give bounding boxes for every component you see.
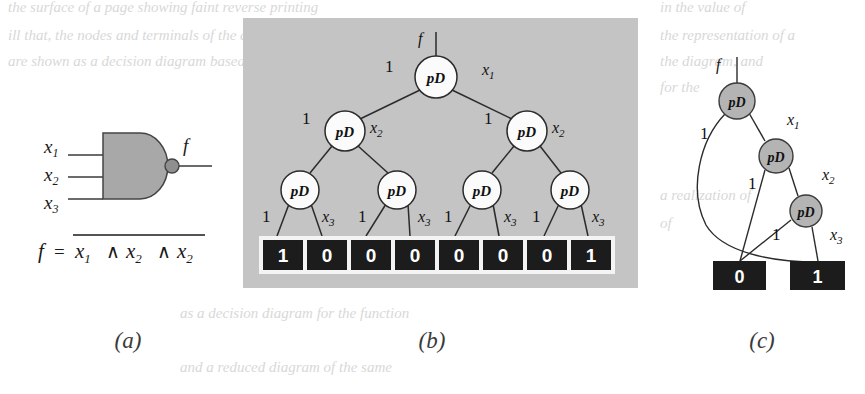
edge-m1-m2 bbox=[789, 168, 798, 196]
input-label-x1: x1 bbox=[43, 136, 58, 160]
bleed-text: are shown as a decision diagram based on bbox=[8, 53, 264, 69]
figure-captions: (a)(b)(c) bbox=[115, 328, 775, 353]
panel-c-edge-labels: 1x11x21x3 bbox=[700, 111, 843, 246]
decision-node: pD bbox=[507, 111, 547, 151]
edge-label-variable: x1 bbox=[786, 111, 800, 131]
edge-m2-x3-to-terminal-1 bbox=[812, 227, 818, 261]
node-label-pd: pD bbox=[471, 183, 492, 199]
panel-a-nand-gate: x1 x2 x3 f f = x1 ∧ x2 ∧ x2 bbox=[38, 133, 212, 266]
figure-caption-b: (b) bbox=[419, 328, 446, 353]
terminal-value: 1 bbox=[812, 267, 822, 287]
formula-operator-2: ∧ bbox=[157, 241, 171, 262]
node-label-pd: pD bbox=[796, 205, 814, 220]
edge-label-constant: 1 bbox=[262, 207, 271, 226]
edge-label-constant: 1 bbox=[444, 207, 453, 226]
edge-label-constant: 1 bbox=[302, 109, 311, 128]
edge-label-constant: 1 bbox=[358, 207, 367, 226]
bleed-text: the surface of a page showing faint reve… bbox=[8, 0, 319, 15]
edge-label-constant: 1 bbox=[772, 225, 781, 244]
decision-node: pD bbox=[325, 111, 365, 151]
terminal-value: 1 bbox=[586, 245, 597, 266]
decision-node: pD bbox=[415, 56, 457, 98]
figure-root: the surface of a page showing faint reve… bbox=[0, 0, 865, 394]
decision-node: pD bbox=[281, 171, 319, 209]
terminal-value: 0 bbox=[410, 245, 421, 266]
edge-label-constant: 1 bbox=[385, 57, 394, 76]
input-label-x2: x2 bbox=[43, 164, 58, 188]
bleed-text: a realization of bbox=[660, 187, 753, 203]
output-label-f: f bbox=[183, 135, 191, 156]
node-label-pd: pD bbox=[727, 95, 745, 110]
decision-node: pD bbox=[551, 171, 589, 209]
terminal-value: 0 bbox=[322, 245, 333, 266]
terminal-value: 0 bbox=[454, 245, 465, 266]
figure-caption-c: (c) bbox=[749, 328, 775, 353]
terminal-cell: 0 bbox=[483, 240, 523, 270]
bleed-text: of bbox=[660, 215, 674, 231]
bleed-text: and a reduced diagram of the same bbox=[180, 359, 392, 375]
terminal-value: 1 bbox=[278, 245, 289, 266]
panel-c-terminals: 01 bbox=[713, 261, 845, 290]
formula-equals: = bbox=[54, 241, 65, 262]
edge-label-variable: x2 bbox=[821, 166, 835, 186]
boolean-formula: f = x1 ∧ x2 ∧ x2 bbox=[38, 235, 205, 266]
node-label-pd: pD bbox=[559, 183, 580, 199]
edge-label-constant: 1 bbox=[700, 124, 709, 143]
edge-m0-m1 bbox=[749, 113, 765, 141]
terminal-cell: 0 bbox=[351, 240, 391, 270]
terminal-cell: 0 bbox=[439, 240, 479, 270]
formula-lhs: f bbox=[38, 239, 47, 263]
node-label-pd: pD bbox=[766, 150, 784, 165]
bleed-text: the representation of a bbox=[660, 27, 795, 43]
terminal-value: 0 bbox=[366, 245, 377, 266]
terminal-cell: 0 bbox=[395, 240, 435, 270]
decision-node: pD bbox=[719, 83, 755, 119]
panel-b-full-diagram: f pD pD pD pD bbox=[243, 18, 638, 288]
decision-node: pD bbox=[378, 171, 416, 209]
terminal-cell: 0 bbox=[307, 240, 347, 270]
bleed-text: as a decision diagram for the function bbox=[180, 305, 409, 321]
edge-label-constant: 1 bbox=[532, 207, 541, 226]
edge-m2-one-to-terminal-0 bbox=[740, 220, 791, 261]
terminal-value: 0 bbox=[734, 267, 744, 287]
terminal-cell: 0 bbox=[527, 240, 567, 270]
terminal-value: 0 bbox=[498, 245, 509, 266]
formula-term-2: x2 bbox=[125, 239, 142, 266]
terminal-value: 0 bbox=[542, 245, 553, 266]
bleed-text: in the value of bbox=[660, 0, 747, 15]
terminal-cell: 1 bbox=[263, 240, 303, 270]
terminal-cell: 0 bbox=[713, 261, 766, 290]
formula-term-3: x2 bbox=[176, 239, 193, 266]
terminal-cell: 1 bbox=[571, 240, 611, 270]
terminal-cell: 1 bbox=[790, 261, 845, 290]
formula-term-1: x1 bbox=[74, 239, 91, 266]
decision-node: pD bbox=[790, 195, 822, 227]
node-label-pd: pD bbox=[386, 183, 407, 199]
formula-operator-1: ∧ bbox=[106, 241, 120, 262]
node-label-pd: pD bbox=[334, 124, 355, 140]
edge-label-constant: 1 bbox=[484, 109, 493, 128]
figure-caption-a: (a) bbox=[115, 328, 142, 353]
edge-label-constant: 1 bbox=[748, 174, 757, 193]
decision-node: pD bbox=[463, 171, 501, 209]
and-gate-body bbox=[103, 133, 168, 199]
inversion-bubble-icon bbox=[165, 159, 179, 173]
node-label-pd: pD bbox=[516, 124, 537, 140]
node-label-pd: pD bbox=[425, 70, 446, 86]
bleed-text: for the bbox=[660, 79, 700, 95]
bleed-text: the diagram, and bbox=[660, 53, 763, 69]
panel-c-reduced-diagram: f pD pD pD 1x11x21x3 01 bbox=[697, 56, 845, 290]
input-label-x3: x3 bbox=[43, 192, 58, 216]
node-label-pd: pD bbox=[289, 183, 310, 199]
edge-label-variable: x3 bbox=[829, 226, 843, 246]
decision-node: pD bbox=[759, 139, 793, 173]
